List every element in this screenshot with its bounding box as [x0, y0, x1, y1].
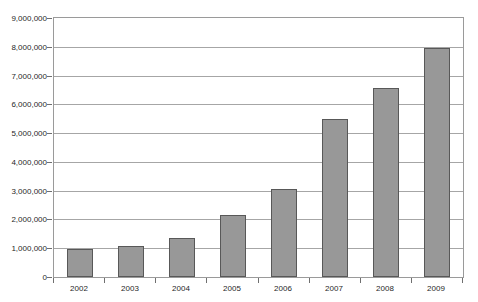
y-axis-tick-mark	[47, 133, 52, 134]
bar-slot	[310, 18, 361, 277]
y-axis: 9,000,0008,000,0007,000,0006,000,0005,00…	[0, 17, 47, 278]
y-axis-tick-mark	[47, 47, 52, 48]
bar-slot	[156, 18, 207, 277]
x-axis-tick-label: 2005	[223, 284, 241, 294]
y-axis-tick-mark	[47, 76, 52, 77]
bar-chart: ............. 9,000,0008,000,0007,000,00…	[0, 0, 478, 302]
x-axis: 20022003200420052006200720082009	[53, 278, 464, 302]
x-axis-tick-mark	[206, 278, 207, 283]
y-axis-tick-mark	[47, 248, 52, 249]
bar-2006	[271, 189, 297, 277]
y-axis-tick-mark	[47, 162, 52, 163]
y-axis-tick-mark	[47, 219, 52, 220]
x-axis-tick-label: 2003	[121, 284, 139, 294]
y-axis-tick-label: 7,000,000	[11, 72, 47, 81]
x-axis-tick-mark	[360, 278, 361, 283]
y-axis-tick-label: 4,000,000	[11, 158, 47, 167]
y-axis-tick-label: 6,000,000	[11, 100, 47, 109]
x-axis-tick-mark	[462, 278, 463, 283]
x-axis-tick-label: 2006	[274, 284, 292, 294]
bar-2007	[322, 119, 348, 277]
x-axis-tick-label: 2007	[325, 284, 343, 294]
plot-area	[53, 17, 464, 278]
x-axis-tick-mark	[155, 278, 156, 283]
x-axis-tick-label: 2009	[427, 284, 445, 294]
y-axis-tick-label: 8,000,000	[11, 43, 47, 52]
bar-2003	[118, 246, 144, 277]
x-axis-tick-label: 2002	[70, 284, 88, 294]
y-axis-tick-mark	[47, 18, 52, 19]
y-axis-tick-label: 1,000,000	[11, 244, 47, 253]
bar-slot	[361, 18, 412, 277]
x-axis-tick-mark	[104, 278, 105, 283]
y-axis-tick-mark	[47, 277, 52, 278]
bar-2005	[220, 215, 246, 277]
x-axis-tick-label: 2004	[172, 284, 190, 294]
y-axis-tick-label: 5,000,000	[11, 129, 47, 138]
bar-slot	[207, 18, 258, 277]
bar-2009	[424, 48, 450, 277]
y-axis-tick-label: 2,000,000	[11, 215, 47, 224]
bar-slot	[54, 18, 105, 277]
bar-slot	[259, 18, 310, 277]
y-axis-tick-mark	[47, 191, 52, 192]
bar-slot	[105, 18, 156, 277]
bar-2008	[373, 88, 399, 277]
y-axis-tick-label: 9,000,000	[11, 14, 47, 23]
chart-title-cropped: .............	[0, 0, 478, 4]
x-axis-tick-mark	[53, 278, 54, 283]
bar-slot	[412, 18, 463, 277]
x-axis-tick-mark	[411, 278, 412, 283]
x-axis-tick-mark	[258, 278, 259, 283]
y-axis-tick-mark	[47, 104, 52, 105]
x-axis-tick-mark	[309, 278, 310, 283]
bar-2002	[67, 249, 93, 277]
bar-2004	[169, 238, 195, 277]
y-axis-tick-label: 3,000,000	[11, 187, 47, 196]
x-axis-tick-label: 2008	[376, 284, 394, 294]
